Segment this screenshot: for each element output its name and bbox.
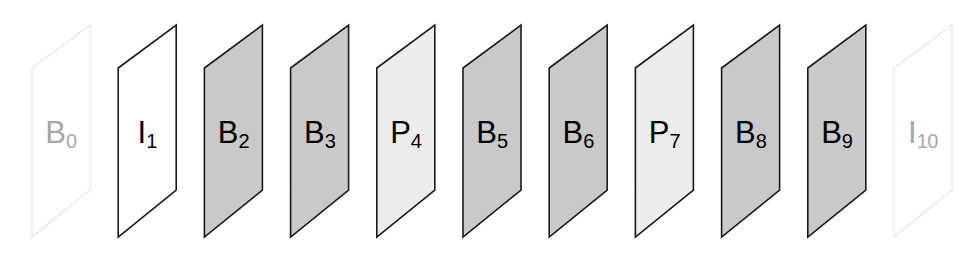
frame-b5-letter: B: [476, 115, 497, 150]
frame-i1-label: I1: [138, 117, 157, 148]
frame-b3-letter: B: [304, 115, 325, 150]
frame-sequence-diagram: B0I1B2B3P4B5B6P7B8B9I10: [0, 0, 979, 255]
frame-b6-letter: B: [563, 115, 584, 150]
frame-b9-label: B9: [821, 117, 852, 148]
frame-b2-letter: B: [218, 115, 239, 150]
frame-b6-label: B6: [563, 117, 594, 148]
frame-b5-index: 5: [497, 130, 508, 152]
frame-b5-label: B5: [476, 117, 507, 148]
frame-p7-index: 7: [669, 130, 680, 152]
frame-b9-index: 9: [842, 130, 853, 152]
frame-b6-index: 6: [583, 130, 594, 152]
frame-b8-index: 8: [756, 130, 767, 152]
frame-b9-letter: B: [821, 115, 842, 150]
frame-b2-label: B2: [218, 117, 249, 148]
frame-p7-label: P7: [649, 117, 680, 148]
frame-b8-label: B8: [735, 117, 766, 148]
frame-p4-label: P4: [390, 117, 421, 148]
frame-b0-letter: B: [45, 115, 66, 150]
frame-i10-index: 10: [917, 130, 938, 152]
frame-b3-index: 3: [325, 130, 336, 152]
frame-p4-index: 4: [411, 130, 422, 152]
frame-i1-index: 1: [146, 130, 157, 152]
frame-p4-letter: P: [390, 115, 411, 150]
frame-i10-letter: I: [908, 115, 917, 150]
frame-b2-index: 2: [238, 130, 249, 152]
frame-i10-label: I10: [908, 117, 938, 148]
frame-b0-label: B0: [45, 117, 76, 148]
frame-i1-letter: I: [138, 115, 147, 150]
frame-p7-letter: P: [649, 115, 670, 150]
frame-b8-letter: B: [735, 115, 756, 150]
frame-b0-index: 0: [66, 130, 77, 152]
frame-b3-label: B3: [304, 117, 335, 148]
